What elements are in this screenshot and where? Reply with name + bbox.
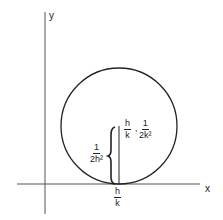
radius-den: 2h² — [90, 154, 103, 164]
center-x-den: k — [125, 130, 130, 140]
center-x-fraction: h k — [124, 119, 131, 140]
tangent-den: k — [115, 198, 120, 208]
center-x-num: h — [124, 119, 131, 130]
center-separator: , — [135, 124, 138, 133]
center-y-den: 2k² — [139, 130, 152, 140]
center-y-num: 1 — [142, 119, 149, 130]
radius-num: 1 — [93, 143, 100, 154]
diagram-canvas — [0, 0, 223, 220]
x-axis-label: x — [205, 184, 210, 194]
radius-fraction: 1 2h² — [90, 143, 103, 164]
tangent-num: h — [114, 187, 121, 198]
y-axis-label: y — [49, 11, 54, 21]
center-y-fraction: 1 2k² — [139, 119, 152, 140]
tangent-point-fraction: h k — [114, 187, 121, 208]
brace — [108, 127, 115, 184]
